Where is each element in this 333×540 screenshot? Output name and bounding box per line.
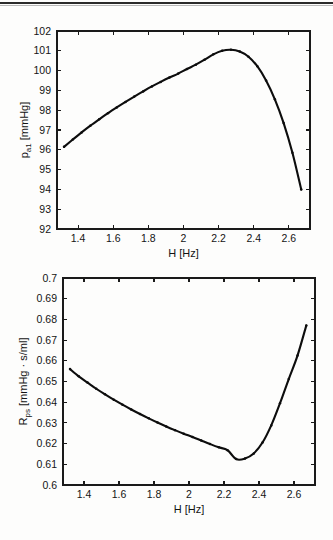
data-point-marker [121,403,124,406]
y-tick-label: 102 [33,25,51,37]
y-tick-label: 95 [39,163,51,175]
page-top-rule-secondary [0,5,333,6]
data-point-marker [291,152,294,155]
data-point-marker [165,425,168,428]
data-point-marker [186,68,189,71]
y-tick-label: 92 [39,223,51,235]
data-point-marker [244,457,247,460]
data-point-marker [200,439,203,442]
data-point-marker [80,131,83,134]
y-tick-label: 100 [33,64,51,76]
data-point-marker [107,112,110,115]
data-point-marker [63,146,66,149]
data-point-marker [209,443,212,446]
data-point-marker [177,72,180,75]
y-tick-label: 0.65 [37,375,58,387]
data-point-marker [274,98,277,101]
data-point-marker [69,368,72,371]
data-point-marker [115,106,118,109]
data-point-marker [203,58,206,61]
x-tick-label: 2.6 [282,232,297,244]
data-point-marker [104,393,107,396]
data-point-marker [89,124,92,127]
figure-rps: 1.41.61.822.22.42.60.60.610.620.630.640.… [0,268,333,536]
y-tick-label: 94 [39,183,51,195]
data-point-marker [288,378,291,381]
data-point-marker [226,449,229,452]
data-point-marker [98,118,101,121]
chart-pa1-svg: 1.41.61.822.22.42.6929394959697989910010… [0,10,333,268]
data-point-marker [183,432,186,435]
data-point-marker [168,76,171,79]
y-tick-label: 0.66 [37,354,58,366]
data-point-marker [270,424,273,427]
x-tick-label: 2.2 [217,488,232,500]
data-point-marker [256,65,259,68]
x-tick-label: 1.4 [77,488,92,500]
data-point-marker [156,421,159,424]
data-point-marker [86,381,89,384]
y-tick-label: 0.64 [37,396,58,408]
plot-frame [63,278,315,485]
data-point-marker [151,85,154,88]
data-point-marker [300,188,303,191]
y-tick-label: 0.69 [37,292,58,304]
data-point-marker [133,95,136,98]
x-tick-label: 2.2 [211,232,226,244]
x-tick-label: 2.6 [287,488,302,500]
data-point-marker [195,63,198,66]
data-point-marker [142,90,145,93]
x-tick-label: 2.4 [252,488,267,500]
data-point-marker [139,413,142,416]
data-point-marker [78,375,81,378]
y-tick-label: 0.63 [37,417,58,429]
y-tick-label: 0.6 [42,479,57,491]
data-point-marker [159,81,162,84]
x-tick-label: 1.6 [112,488,127,500]
y-axis-title: Rps [mmHg · s/ml] [17,338,32,426]
y-tick-label: 0.61 [37,458,58,470]
y-tick-label: 0.68 [37,313,58,325]
chart-pa1-plot-area: 1.41.61.822.22.42.6929394959697989910010… [18,25,310,259]
x-tick-label: 2 [181,232,187,244]
data-point-marker [218,446,221,449]
data-point-marker [305,324,308,327]
y-tick-label: 97 [39,124,51,136]
data-point-marker [113,398,116,401]
data-point-marker [191,436,194,439]
y-tick-label: 0.67 [37,334,58,346]
y-tick-label: 98 [39,104,51,116]
scanned-page: 1.41.61.822.22.42.6929394959697989910010… [0,0,333,540]
plot-frame [57,31,310,229]
x-tick-label: 1.6 [106,232,121,244]
x-tick-label: 1.8 [147,488,162,500]
page-top-rule [0,2,333,4]
chart-rps-svg: 1.41.61.822.22.42.60.60.610.620.630.640.… [0,268,333,536]
x-tick-label: 1.8 [141,232,156,244]
data-point-marker [279,402,282,405]
data-point-marker [261,441,264,444]
figure-pa1: 1.41.61.822.22.42.6929394959697989910010… [0,10,333,268]
data-point-marker [253,452,256,455]
data-point-marker [212,53,215,56]
data-point-marker [247,55,250,58]
y-axis-title: pa1 [mmHg] [18,102,33,159]
data-point-marker [282,122,285,125]
x-axis-title: H [Hz] [174,503,205,515]
x-axis-title: H [Hz] [168,247,199,259]
y-tick-label: 96 [39,143,51,155]
data-point-marker [296,354,299,357]
y-tick-label: 0.7 [42,272,57,284]
data-point-marker [230,49,233,52]
data-point-marker [130,408,133,411]
data-point-marker [221,50,224,53]
y-tick-label: 0.62 [37,437,58,449]
y-tick-label: 99 [39,84,51,96]
data-point-marker [174,429,177,432]
data-point-marker [148,417,151,420]
chart-rps-plot-area: 1.41.61.822.22.42.60.60.610.620.630.640.… [17,272,315,515]
data-point-marker [124,101,127,104]
data-point-marker [238,50,241,53]
data-point-marker [72,138,75,141]
data-point-marker [265,79,268,82]
